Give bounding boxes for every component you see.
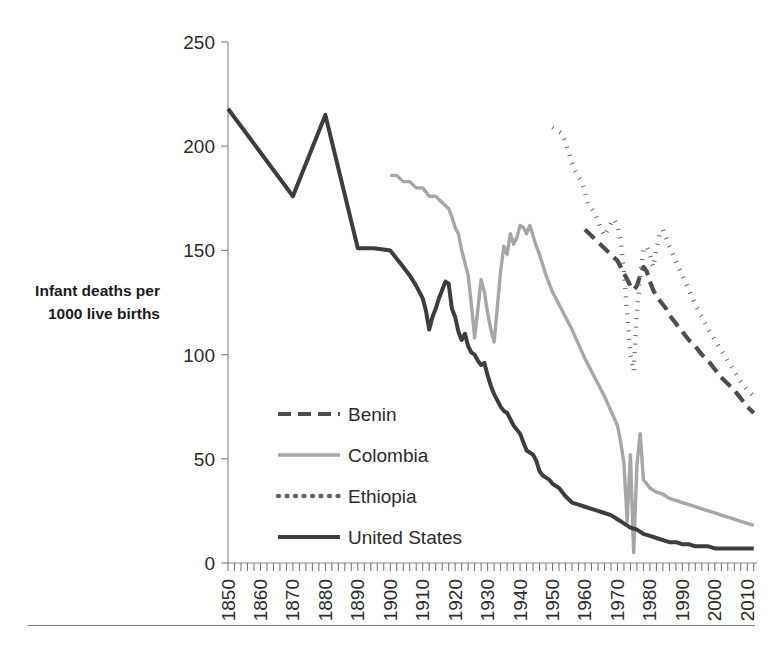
x-tick-label-group: 1910 [412, 579, 433, 621]
series-line-benin [585, 230, 754, 413]
x-tick-label: 1880 [315, 579, 336, 621]
series-line-colombia [390, 175, 753, 552]
x-tick-label: 1960 [574, 579, 595, 621]
x-tick-label: 1950 [542, 579, 563, 621]
legend-label-benin: Benin [348, 404, 397, 425]
x-tick-label: 1850 [218, 579, 239, 621]
legend-label-united-states: United States [348, 527, 462, 548]
x-tick-label-group: 2010 [737, 579, 758, 621]
legend-label-colombia: Colombia [348, 445, 429, 466]
x-tick-label: 1940 [510, 579, 531, 621]
x-tick-label-group: 1920 [445, 579, 466, 621]
x-tick-label: 1890 [347, 579, 368, 621]
x-tick-label-group: 1940 [510, 579, 531, 621]
y-tick-label: 100 [183, 345, 215, 366]
y-tick-label: 50 [194, 449, 215, 470]
y-tick-label: 200 [183, 136, 215, 157]
x-tick-label: 2010 [737, 579, 758, 621]
x-tick-label-group: 1850 [218, 579, 239, 621]
x-tick-label-group: 1880 [315, 579, 336, 621]
y-tick-label: 0 [204, 553, 215, 574]
x-tick-label-group: 1990 [672, 579, 693, 621]
footer-divider [28, 625, 755, 626]
infant-mortality-chart: 0501001502002501850186018701880189019001… [0, 0, 783, 650]
y-axis-title-line1: Infant deaths per [35, 282, 160, 299]
x-tick-label: 1910 [412, 579, 433, 621]
x-tick-label-group: 1890 [347, 579, 368, 621]
x-tick-label-group: 2000 [704, 579, 725, 621]
x-tick-label: 1970 [607, 579, 628, 621]
chart-canvas: 0501001502002501850186018701880189019001… [0, 0, 783, 650]
x-tick-label: 1980 [639, 579, 660, 621]
legend-label-ethiopia: Ethiopia [348, 486, 417, 507]
y-tick-label: 250 [183, 32, 215, 53]
x-tick-label-group: 1960 [574, 579, 595, 621]
x-tick-label-group: 1860 [250, 579, 271, 621]
x-tick-label-group: 1980 [639, 579, 660, 621]
y-axis-title-line2: 1000 live births [48, 305, 160, 322]
x-tick-label-group: 1970 [607, 579, 628, 621]
x-tick-label: 1900 [380, 579, 401, 621]
y-tick-label: 150 [183, 240, 215, 261]
x-tick-label: 1870 [282, 579, 303, 621]
x-tick-label: 2000 [704, 579, 725, 621]
x-tick-label: 1990 [672, 579, 693, 621]
x-tick-label: 1930 [477, 579, 498, 621]
x-tick-label-group: 1930 [477, 579, 498, 621]
x-tick-label-group: 1950 [542, 579, 563, 621]
x-tick-label-group: 1900 [380, 579, 401, 621]
x-tick-label: 1860 [250, 579, 271, 621]
x-tick-label: 1920 [445, 579, 466, 621]
x-tick-label-group: 1870 [282, 579, 303, 621]
